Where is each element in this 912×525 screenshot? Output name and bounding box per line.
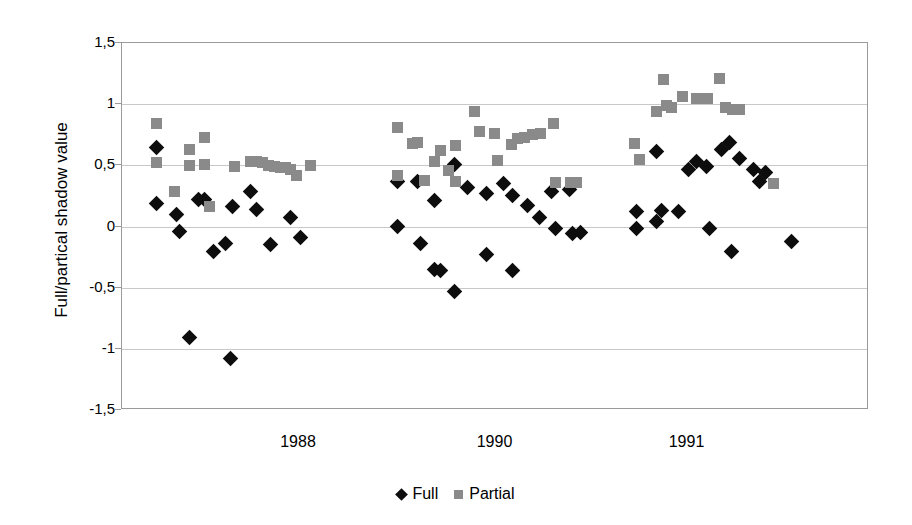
- data-point-partial: [435, 145, 446, 156]
- data-point-full: [478, 247, 494, 263]
- data-point-full: [190, 192, 206, 208]
- data-point-full: [688, 154, 704, 170]
- data-point-partial: [734, 104, 745, 115]
- data-point-full: [543, 183, 559, 199]
- data-point-partial: [527, 129, 538, 140]
- data-point-partial: [629, 138, 640, 149]
- data-point-full: [745, 161, 761, 177]
- data-point-partial: [257, 157, 268, 168]
- data-point-partial: [519, 132, 530, 143]
- legend-label: Full: [412, 486, 438, 502]
- data-point-full: [564, 226, 580, 242]
- data-point-full: [248, 202, 264, 218]
- diamond-icon: [396, 488, 409, 501]
- data-point-partial: [550, 177, 561, 188]
- data-point-partial: [269, 161, 280, 172]
- data-point-full: [262, 237, 278, 253]
- data-point-partial: [275, 162, 286, 173]
- data-point-full: [670, 204, 686, 220]
- data-point-full: [561, 182, 577, 198]
- data-point-full: [282, 210, 298, 226]
- data-point-partial: [184, 144, 195, 155]
- y-axis-tick-mark: [115, 409, 121, 410]
- data-point-full: [222, 351, 238, 367]
- data-point-full: [757, 165, 773, 181]
- data-point-full: [680, 161, 696, 177]
- data-point-partial: [392, 122, 403, 133]
- data-point-full: [217, 236, 233, 252]
- data-point-partial: [651, 106, 662, 117]
- y-axis-tick-mark: [115, 226, 121, 227]
- data-point-full: [148, 139, 164, 155]
- data-point-full: [653, 203, 669, 219]
- data-point-partial: [392, 170, 403, 181]
- data-point-full: [224, 199, 240, 215]
- data-point-partial: [474, 126, 485, 137]
- y-axis-tick-label: 0,5: [45, 156, 115, 171]
- data-point-partial: [443, 165, 454, 176]
- data-point-full: [168, 207, 184, 223]
- data-point-full: [389, 173, 405, 189]
- data-point-partial: [727, 104, 738, 115]
- data-point-full: [478, 186, 494, 202]
- data-point-full: [519, 198, 535, 214]
- data-point-full: [713, 142, 729, 158]
- data-point-partial: [169, 186, 180, 197]
- data-point-partial: [535, 128, 546, 139]
- data-point-partial: [291, 170, 302, 181]
- data-point-partial: [229, 161, 240, 172]
- y-axis-tick-mark: [115, 287, 121, 288]
- data-point-full: [731, 150, 747, 166]
- data-point-full: [148, 196, 164, 212]
- data-point-partial: [768, 178, 779, 189]
- legend-entry[interactable]: Full: [397, 486, 438, 502]
- data-point-partial: [450, 140, 461, 151]
- data-point-full: [292, 230, 308, 246]
- gridline: [122, 227, 867, 228]
- square-icon: [454, 490, 463, 499]
- y-axis-tick-mark: [115, 42, 121, 43]
- data-point-full: [648, 144, 664, 160]
- data-point-partial: [565, 177, 576, 188]
- data-point-full: [504, 263, 520, 279]
- x-axis-tick-label: 1991: [627, 432, 747, 452]
- chart-legend: FullPartial: [0, 481, 912, 507]
- gridline: [122, 165, 867, 166]
- y-axis-tick-label: -1,5: [45, 401, 115, 416]
- data-point-full: [242, 183, 258, 199]
- data-point-full: [495, 176, 511, 192]
- data-point-full: [698, 159, 714, 175]
- data-point-partial: [199, 132, 210, 143]
- data-point-full: [426, 262, 442, 278]
- data-point-full: [723, 243, 739, 259]
- data-point-full: [701, 221, 717, 237]
- gridline: [122, 288, 867, 289]
- x-axis-tick-label: 1988: [238, 432, 358, 452]
- data-point-partial: [151, 118, 162, 129]
- data-point-partial: [204, 201, 215, 212]
- data-point-partial: [714, 73, 725, 84]
- legend-entry[interactable]: Partial: [454, 486, 514, 502]
- data-point-full: [751, 173, 767, 189]
- data-point-partial: [450, 176, 461, 187]
- data-point-partial: [489, 128, 500, 139]
- data-point-full: [446, 284, 462, 300]
- data-point-full: [628, 221, 644, 237]
- data-point-partial: [506, 139, 517, 150]
- data-point-full: [504, 188, 520, 204]
- data-point-full: [181, 330, 197, 346]
- data-point-full: [409, 173, 425, 189]
- data-point-partial: [492, 155, 503, 166]
- data-point-partial: [419, 175, 430, 186]
- data-point-partial: [151, 157, 162, 168]
- legend-label: Partial: [469, 486, 514, 502]
- data-point-full: [628, 204, 644, 220]
- data-point-partial: [571, 177, 582, 188]
- scatter-chart: Full/partical shadow value 1,510,50-0,5-…: [0, 0, 912, 525]
- data-point-partial: [691, 93, 702, 104]
- data-point-full: [205, 243, 221, 259]
- y-axis-tick-label: -0,5: [45, 279, 115, 294]
- data-point-partial: [677, 91, 688, 102]
- data-point-full: [196, 192, 212, 208]
- x-axis-tick-label: 1990: [435, 432, 555, 452]
